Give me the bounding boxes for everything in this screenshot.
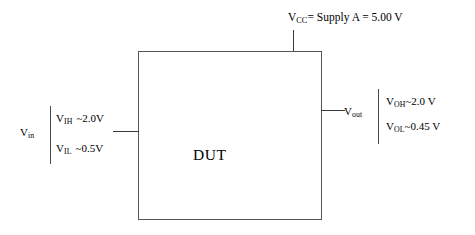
vout-subscript: out xyxy=(352,110,362,119)
vol-symbol: V xyxy=(386,120,394,132)
voh-symbol: V xyxy=(386,95,394,107)
voh-level-label: VOH~2.0 V xyxy=(386,96,436,109)
vcc-expression: = Supply A = 5.00 V xyxy=(307,11,402,23)
dut-label: DUT xyxy=(193,146,227,164)
vcc-subscript: CC xyxy=(296,16,307,25)
vol-subscript: OL xyxy=(394,125,405,134)
vil-symbol: V xyxy=(56,142,64,154)
vout-port-label: Vout xyxy=(344,106,362,119)
vcc-supply-label: VCC= Supply A = 5.00 V xyxy=(288,12,403,25)
vout-symbol: V xyxy=(344,105,352,117)
vin-subscript: in xyxy=(28,131,34,140)
vil-value: ~0.5V xyxy=(72,142,104,154)
vin-port-label: Vin xyxy=(20,127,34,140)
dut-block xyxy=(138,51,322,220)
input-wire xyxy=(113,131,139,132)
vil-subscript: IL xyxy=(64,147,72,156)
vol-level-label: VOL~0.45 V xyxy=(386,121,440,134)
voh-subscript: OH xyxy=(394,100,405,109)
vin-symbol: V xyxy=(20,126,28,138)
output-levels-divider xyxy=(378,89,379,144)
vcc-wire xyxy=(293,30,294,52)
vih-level-label: VIH~2.0V xyxy=(56,113,104,126)
input-levels-divider xyxy=(50,106,51,164)
output-wire xyxy=(321,110,345,111)
diagram-canvas: VCC= Supply A = 5.00 V DUT Vin VIH~2.0V … xyxy=(0,0,475,235)
vol-value: ~0.45 V xyxy=(405,120,441,132)
vil-level-label: VIL~0.5V xyxy=(56,143,103,156)
vih-value: ~2.0V xyxy=(72,112,104,124)
voh-value: ~2.0 V xyxy=(405,95,435,107)
vih-symbol: V xyxy=(56,112,64,124)
